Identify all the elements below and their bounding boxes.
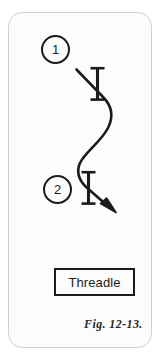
thread-path [77, 70, 112, 208]
figure-canvas: 1 2 Threadle Fig. 12-13. [0, 0, 162, 359]
step-marker-1: 1 [41, 35, 70, 64]
needle-bar-icon-lower [82, 172, 96, 203]
threadle-label-box: Threadle [54, 268, 135, 296]
diagram-drawing [0, 0, 162, 359]
threadle-label-text: Threadle [68, 275, 120, 290]
step-marker-2: 2 [43, 175, 72, 204]
figure-caption: Fig. 12-13. [84, 317, 143, 332]
threadle-label-box-inner: Threadle [56, 270, 133, 294]
thread-path-group [77, 70, 112, 208]
